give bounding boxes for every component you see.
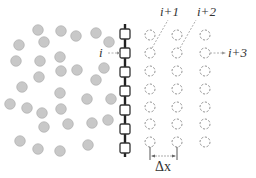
particle	[11, 56, 22, 67]
particle	[103, 115, 114, 126]
ghost-site	[200, 84, 210, 94]
chain-node	[120, 86, 130, 96]
ghost-site	[200, 66, 210, 76]
label-delta-x: Δx	[155, 160, 171, 174]
particle	[87, 118, 98, 129]
particle	[56, 26, 67, 37]
particle	[106, 94, 117, 105]
arrowhead-i-plus-3	[222, 52, 226, 55]
particle	[55, 146, 66, 157]
ghost-site	[172, 84, 182, 94]
ghost-site	[172, 137, 182, 147]
ghost-site	[145, 102, 155, 112]
ghost-site	[172, 66, 182, 76]
chain-node	[120, 143, 130, 153]
particle	[104, 37, 115, 48]
particle	[34, 72, 45, 83]
particle	[82, 94, 93, 105]
particle	[5, 99, 16, 110]
ghost-site	[145, 48, 155, 58]
pointer-i-plus-2	[180, 20, 196, 48]
particle	[39, 122, 50, 133]
particle	[17, 82, 28, 93]
particle	[15, 136, 26, 147]
particle	[91, 75, 102, 86]
particle	[22, 103, 33, 114]
ghost-site	[172, 30, 182, 40]
ghost-site	[172, 119, 182, 129]
particle	[72, 65, 83, 76]
particle	[35, 56, 46, 67]
ghost-site	[145, 119, 155, 129]
chain-node	[120, 67, 130, 77]
particle	[83, 140, 94, 151]
ghost-site	[200, 48, 210, 58]
particle	[71, 31, 82, 42]
ghost-site	[145, 84, 155, 94]
particle	[33, 144, 44, 155]
particle	[33, 25, 44, 36]
label-i-plus-2: i+2	[197, 5, 216, 18]
label-i: i	[99, 46, 103, 59]
ghost-site	[200, 30, 210, 40]
ghost-site	[172, 102, 182, 112]
ghost-site	[172, 48, 182, 58]
particle	[14, 40, 25, 51]
ghost-site	[200, 137, 210, 147]
ghost-site	[200, 102, 210, 112]
ghost-site	[145, 66, 155, 76]
particle	[56, 104, 67, 115]
chain-node	[120, 124, 130, 134]
chain-node	[120, 29, 130, 39]
chain-node	[120, 105, 130, 115]
ghost-site	[200, 119, 210, 129]
particle-chain	[120, 24, 130, 157]
particle	[63, 119, 74, 130]
pointer-i-plus-1	[152, 20, 168, 48]
particle	[55, 52, 66, 63]
ghost-site	[145, 137, 155, 147]
particle	[39, 37, 50, 48]
label-i-plus-1: i+1	[160, 5, 179, 18]
ghost-lattice	[145, 30, 210, 147]
label-i-plus-3: i+3	[228, 46, 247, 59]
ghost-site	[145, 30, 155, 40]
chain-node	[120, 48, 130, 58]
particle	[55, 88, 66, 99]
particle	[99, 63, 110, 74]
particle	[37, 108, 48, 119]
lattice-diagram	[0, 0, 256, 178]
particle	[56, 66, 67, 77]
particle	[91, 28, 102, 39]
